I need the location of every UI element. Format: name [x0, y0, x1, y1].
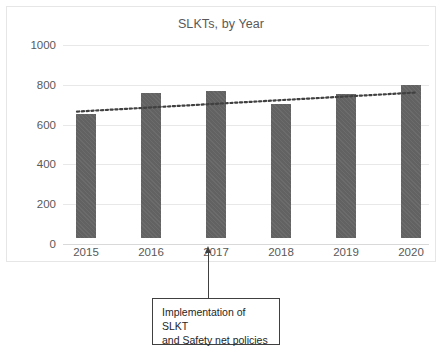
gridline-0-baseline: 0: [63, 244, 429, 245]
gridline-200: 200: [63, 204, 429, 205]
bar-2015[interactable]: 2015: [76, 114, 96, 238]
ytick-label-1000: 1000: [30, 39, 56, 51]
annotation-callout: Implementation of SLKT and Safety net po…: [152, 298, 280, 345]
trendline: [63, 39, 429, 238]
gridline-400: 400: [63, 164, 429, 165]
annotation-line-2: and Safety net policies: [162, 333, 271, 347]
bar-2018[interactable]: 2018: [271, 104, 291, 238]
ytick-label-800: 800: [37, 79, 56, 91]
xtick-label-2020: 2020: [398, 246, 424, 258]
chart-container: SLKTs, by Year 1000 800 600 400 200 0 20…: [6, 6, 436, 262]
chart-title: SLKTs, by Year: [7, 17, 435, 31]
bar-2017[interactable]: 2017: [206, 91, 226, 238]
callout-leader-line: [208, 252, 209, 298]
bar-2020[interactable]: 2020: [401, 85, 421, 238]
ytick-label-200: 200: [37, 198, 56, 210]
gridline-1000: 1000: [63, 45, 429, 46]
bar-2016[interactable]: 2016: [141, 93, 161, 238]
ytick-label-0: 0: [50, 238, 56, 250]
bar-2019[interactable]: 2019: [336, 94, 356, 238]
plot-area: 1000 800 600 400 200 0 2015 2016 2017 20…: [63, 39, 429, 238]
ytick-label-600: 600: [37, 119, 56, 131]
annotation-line-1: Implementation of SLKT: [162, 305, 271, 333]
xtick-label-2016: 2016: [138, 246, 164, 258]
ytick-label-400: 400: [37, 158, 56, 170]
gridline-600: 600: [63, 125, 429, 126]
xtick-label-2018: 2018: [268, 246, 294, 258]
xtick-label-2015: 2015: [73, 246, 99, 258]
xtick-label-2019: 2019: [333, 246, 359, 258]
gridline-800: 800: [63, 85, 429, 86]
